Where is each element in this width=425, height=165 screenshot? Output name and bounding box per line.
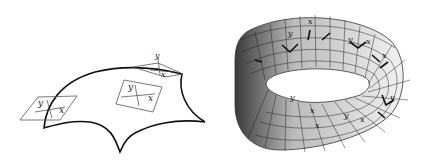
svg-text:y: y — [289, 93, 295, 102]
svg-text:x: x — [308, 17, 313, 26]
curved-surface-diagram: y x y x y x — [0, 0, 210, 165]
svg-text:y: y — [287, 29, 293, 38]
svg-text:x: x — [310, 106, 315, 115]
svg-text:x: x — [161, 70, 166, 79]
svg-text:x: x — [148, 93, 153, 103]
svg-text:x: x — [315, 121, 320, 130]
svg-text:x: x — [360, 115, 365, 124]
curved-surface-svg: y x y x y x — [0, 0, 210, 165]
svg-text:x: x — [382, 51, 387, 60]
svg-text:y: y — [389, 93, 395, 102]
mobius-strip-svg: x y x y x y x y x y x — [210, 0, 425, 165]
mobius-strip-diagram: x y x y x y x y x y x — [210, 0, 425, 165]
svg-text:y: y — [37, 98, 44, 108]
svg-text:y: y — [343, 111, 349, 120]
tangent-plane-top-right: y x — [133, 51, 183, 79]
svg-text:x: x — [366, 37, 371, 46]
svg-text:y: y — [154, 51, 160, 60]
svg-text:x: x — [59, 105, 64, 115]
svg-text:y: y — [127, 82, 134, 92]
tangent-plane-center: y x — [116, 80, 162, 112]
svg-text:y: y — [347, 35, 353, 44]
